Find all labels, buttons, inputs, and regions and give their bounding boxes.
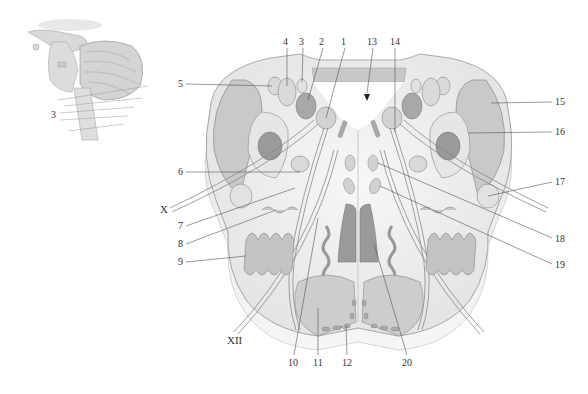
label-18: 18 xyxy=(555,234,565,244)
label-7: 7 xyxy=(178,221,183,231)
label-19: 19 xyxy=(555,260,565,270)
label-1: 1 xyxy=(341,37,346,47)
label-8: 8 xyxy=(178,239,183,249)
medulla-illustration xyxy=(0,0,588,394)
label-14: 14 xyxy=(390,37,400,47)
label-3: 3 xyxy=(299,37,304,47)
label-15: 15 xyxy=(555,97,565,107)
label-6: 6 xyxy=(178,167,183,177)
label-2: 2 xyxy=(319,37,324,47)
inset-label-3: 3 xyxy=(51,110,56,120)
label-11: 11 xyxy=(313,358,323,368)
label-16: 16 xyxy=(555,127,565,137)
label-17: 17 xyxy=(555,177,565,187)
label-13: 13 xyxy=(367,37,377,47)
medulla-section xyxy=(170,54,548,350)
label-cranial-nerve-x: X xyxy=(160,204,168,214)
label-9: 9 xyxy=(178,257,183,267)
label-20: 20 xyxy=(402,358,412,368)
diagram-stage: 1 2 3 4 5 6 7 8 9 10 11 12 13 14 15 16 1… xyxy=(0,0,588,394)
inset-brainstem xyxy=(28,19,148,140)
label-4: 4 xyxy=(283,37,288,47)
label-cranial-nerve-xii: XII xyxy=(227,335,242,345)
label-12: 12 xyxy=(342,358,352,368)
label-10: 10 xyxy=(288,358,298,368)
label-5: 5 xyxy=(178,79,183,89)
